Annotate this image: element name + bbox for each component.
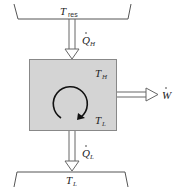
heat-out-label: Q L [82,145,94,161]
heat-in-label: Q H [82,32,96,48]
heat-in-subscript: H [89,40,96,48]
time-derivative-dot [165,87,167,89]
hot-reservoir: T res [14,4,131,19]
heat-engine-diagram: T res Q H T H T L W Q [0,0,183,189]
heat-out-subscript: L [89,153,94,161]
heat-in-symbol: Q [82,34,90,46]
engine-box: T H T L [30,60,117,131]
work-out-label: W [162,87,172,101]
engine-cold-symbol: T [95,114,102,126]
time-derivative-dot [85,32,87,34]
hot-reservoir-symbol: T [60,5,67,17]
heat-in-arrow [65,19,79,59]
engine-cold-subscript: L [101,120,106,128]
heat-out-symbol: Q [82,147,90,159]
engine-hot-symbol: T [95,67,102,79]
cold-reservoir-subscript: L [72,180,77,188]
cold-reservoir: T L [14,172,128,188]
heat-out-arrow [65,131,79,171]
time-derivative-dot [85,145,87,147]
work-out-arrow [117,88,158,101]
work-out-symbol: W [162,89,172,101]
hot-reservoir-subscript: res [68,11,78,18]
cold-reservoir-symbol: T [66,174,73,186]
engine-hot-subscript: H [101,73,108,81]
